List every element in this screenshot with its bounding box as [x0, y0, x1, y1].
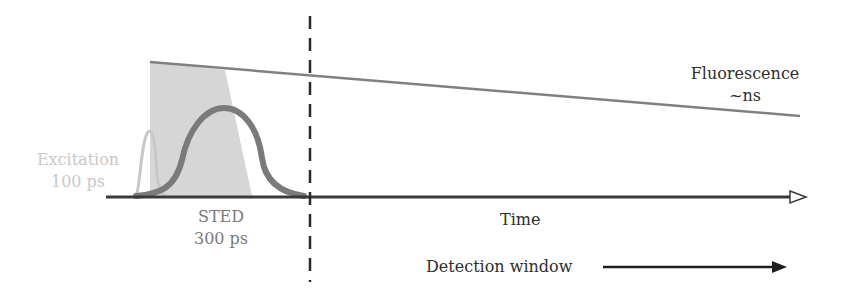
time-axis-arrowhead-icon	[790, 191, 806, 203]
depletion-shaded-region	[150, 62, 252, 196]
fluorescence-label-name: Fluorescence	[680, 64, 810, 84]
excitation-label: Excitation 100 ps	[28, 150, 128, 192]
excitation-label-name: Excitation	[28, 150, 128, 170]
excitation-label-duration: 100 ps	[28, 172, 128, 192]
detection-window-arrowhead-icon	[772, 261, 787, 273]
sted-label-duration: 300 ps	[181, 229, 261, 249]
sted-label-name: STED	[181, 207, 261, 227]
detection-window-label: Detection window	[426, 257, 572, 277]
time-axis-label: Time	[500, 210, 540, 230]
sted-label: STED 300 ps	[181, 207, 261, 249]
fluorescence-label-duration: ~ns	[680, 86, 810, 106]
fluorescence-label: Fluorescence ~ns	[680, 64, 810, 106]
